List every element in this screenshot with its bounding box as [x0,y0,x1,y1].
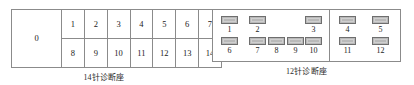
pin-slot-9 [287,37,304,45]
table-row: 0 1 2 3 4 5 6 7 [12,10,222,39]
pin-slot-label-1: 1 [221,25,238,34]
pin-cell-2: 2 [84,10,107,39]
pin-cell-1: 1 [62,10,85,39]
pin-cell-ground: 0 [12,10,62,68]
pin-slot-label-7: 7 [249,46,266,55]
pin-slot-label-12: 12 [372,46,389,55]
caption-12-pin: 12针诊断座 [212,66,401,77]
pin-cell-5: 5 [153,10,176,39]
pin-slot-label-8: 8 [268,46,285,55]
pin-slot-label-2: 2 [249,25,266,34]
pin-slot-label-4: 4 [339,25,356,34]
pin-slot-7 [249,37,266,45]
pin-slot-10 [305,37,322,45]
pin-cell-6: 6 [176,10,199,39]
pin-slot-6 [221,37,238,45]
pin-slot-label-10: 10 [305,46,322,55]
figure-14-pin-connector: 0 1 2 3 4 5 6 7 8 9 10 11 12 13 14 14针诊断… [11,9,197,83]
pin-slot-12 [372,37,389,45]
diagram-canvas: 0 1 2 3 4 5 6 7 8 9 10 11 12 13 14 14针诊断… [0,0,414,85]
pin-cell-10: 10 [107,39,130,68]
pin-table-14: 0 1 2 3 4 5 6 7 8 9 10 11 12 13 14 [11,9,222,68]
pin-slot-label-5: 5 [372,25,389,34]
connector-housing-12: 123678910451112 [212,9,401,62]
pin-slot-1 [221,16,238,24]
caption-14-pin: 14针诊断座 [11,72,197,83]
pin-cell-3: 3 [107,10,130,39]
pin-slot-label-3: 3 [305,25,322,34]
pin-slot-label-6: 6 [221,46,238,55]
pin-cell-13: 13 [176,39,199,68]
pin-cell-12: 12 [153,39,176,68]
pin-slot-2 [249,16,266,24]
pin-slot-8 [268,37,285,45]
pin-cell-9: 9 [84,39,107,68]
pin-slot-label-9: 9 [287,46,304,55]
pin-slot-5 [372,16,389,24]
pin-slot-11 [339,37,356,45]
connector-compartment-divider [329,10,330,61]
pin-slot-label-11: 11 [339,46,356,55]
figure-12-pin-connector: 123678910451112 12针诊断座 [212,9,401,77]
pin-cell-8: 8 [62,39,85,68]
pin-cell-4: 4 [130,10,153,39]
pin-cell-11: 11 [130,39,153,68]
pin-slot-3 [305,16,322,24]
pin-slot-4 [339,16,356,24]
